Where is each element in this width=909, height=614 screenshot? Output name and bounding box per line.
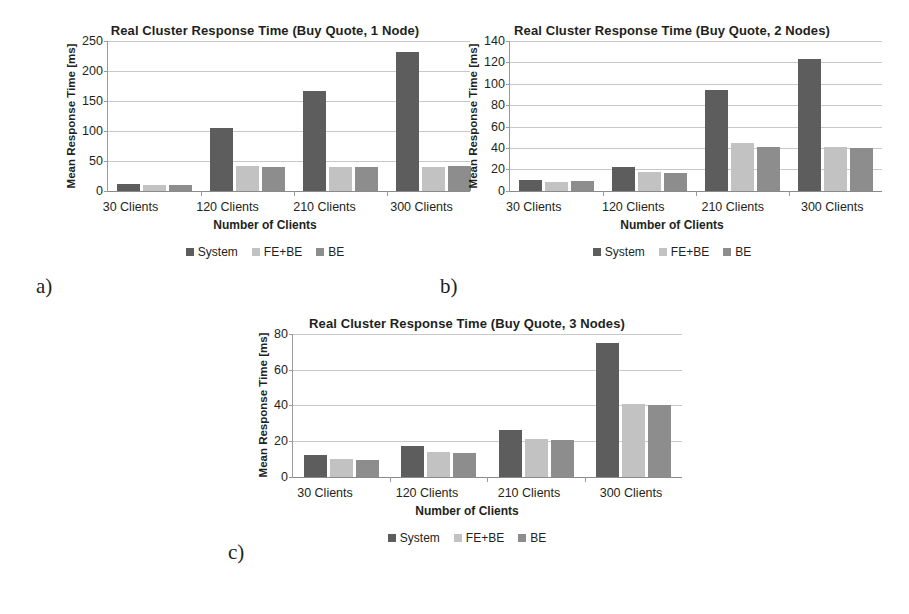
x-axis-label: Number of Clients: [60, 218, 470, 232]
bar-system: [499, 430, 522, 476]
x-tick-label: 300 Clients: [580, 486, 682, 500]
bar-group: [603, 41, 696, 191]
bar-system: [612, 167, 635, 191]
panel-tag-c: c): [228, 540, 244, 565]
bar-fe-be: [236, 166, 259, 191]
plot-area: [292, 334, 682, 477]
legend-label-febe: FE+BE: [466, 531, 504, 545]
bar-fe-be: [330, 459, 353, 477]
bar-groups: [293, 334, 682, 477]
chart-title: Real Cluster Response Time (Buy Quote, 1…: [60, 22, 470, 41]
legend-swatch-icon-febe: [454, 534, 462, 542]
y-axis-label: Mean Response Time [ms]: [467, 43, 479, 188]
legend: System FE+BE BE: [60, 245, 470, 259]
bar-system: [798, 59, 821, 191]
legend-swatch-icon-febe: [252, 248, 260, 256]
x-tick-label: 120 Clients: [584, 200, 684, 214]
legend-item-febe: FE+BE: [454, 531, 504, 545]
legend-item-be: BE: [723, 245, 751, 259]
bar-group: [293, 334, 390, 477]
x-axis-label: Number of Clients: [462, 218, 882, 232]
chart-panel-c: Real Cluster Response Time (Buy Quote, 3…: [252, 315, 682, 605]
bar-be: [453, 453, 476, 477]
legend-item-be: BE: [518, 531, 546, 545]
x-tick-label: 30 Clients: [274, 486, 376, 500]
bar-fe-be: [427, 452, 450, 477]
legend-item-febe: FE+BE: [252, 245, 302, 259]
chart-panel-b: Real Cluster Response Time (Buy Quote, 2…: [462, 22, 882, 307]
legend-label-be: BE: [530, 531, 546, 545]
chart-panel-a: Real Cluster Response Time (Buy Quote, 1…: [60, 22, 470, 307]
bar-group: [696, 41, 789, 191]
bar-system: [210, 128, 233, 190]
x-tick-labels: 30 Clients120 Clients210 Clients300 Clie…: [484, 200, 882, 214]
x-tick-spacer: [462, 200, 484, 214]
legend-swatch-icon-febe: [659, 248, 667, 256]
legend-swatch-icon-system: [593, 248, 601, 256]
bar-system: [401, 446, 424, 476]
bar-group: [585, 334, 682, 477]
bar-be: [648, 405, 671, 477]
bar-groups: [108, 41, 470, 191]
y-tick-mark: [289, 477, 293, 478]
bar-system: [304, 455, 327, 476]
y-axis-label-box: Mean Response Time [ms]: [60, 41, 82, 191]
bar-group: [108, 41, 201, 191]
plot-area: [509, 41, 882, 191]
x-axis-label: Number of Clients: [252, 504, 682, 518]
x-tick-label: 30 Clients: [484, 200, 584, 214]
legend-swatch-icon-be: [316, 248, 324, 256]
bar-be: [355, 167, 378, 191]
legend-swatch-icon-system: [186, 248, 194, 256]
y-tick-labels: 250200150100500: [82, 41, 107, 191]
x-tick-label: 210 Clients: [683, 200, 783, 214]
chart-title: Real Cluster Response Time (Buy Quote, 2…: [462, 22, 882, 41]
x-tick-label: 300 Clients: [783, 200, 883, 214]
legend-label-system: System: [198, 245, 238, 259]
x-tick-label: 300 Clients: [373, 200, 470, 214]
chart-title: Real Cluster Response Time (Buy Quote, 3…: [252, 315, 682, 334]
legend-label-system: System: [605, 245, 645, 259]
x-tick-spacer: [60, 200, 82, 214]
bar-system: [117, 184, 140, 191]
x-tick-label: 120 Clients: [376, 486, 478, 500]
legend-item-febe: FE+BE: [659, 245, 709, 259]
y-axis-label: Mean Response Time [ms]: [65, 43, 77, 188]
bar-be: [757, 147, 780, 191]
x-tick-label: 120 Clients: [179, 200, 276, 214]
panel-tag-b: b): [440, 274, 458, 299]
x-tick-labels: 30 Clients120 Clients210 Clients300 Clie…: [274, 486, 682, 500]
bar-be: [850, 148, 873, 191]
legend-label-system: System: [400, 531, 440, 545]
legend-item-system: System: [593, 245, 645, 259]
panel-tag-a: a): [36, 274, 52, 299]
x-tick-label: 210 Clients: [276, 200, 373, 214]
bar-group: [201, 41, 294, 191]
bar-be: [262, 167, 285, 191]
legend: System FE+BE BE: [252, 531, 682, 545]
y-tick-mark: [104, 191, 108, 192]
bar-fe-be: [731, 143, 754, 191]
y-axis-label-box: Mean Response Time [ms]: [462, 41, 484, 191]
bar-be: [356, 460, 379, 477]
legend-swatch-icon-be: [518, 534, 526, 542]
plot-area: [107, 41, 470, 191]
plot-row: Mean Response Time [ms] 806040200: [252, 334, 682, 477]
bar-fe-be: [824, 147, 847, 191]
bar-groups: [510, 41, 882, 191]
x-tick-label: 210 Clients: [478, 486, 580, 500]
bar-be: [571, 181, 594, 191]
legend-item-be: BE: [316, 245, 344, 259]
bar-be: [169, 185, 192, 190]
legend-label-febe: FE+BE: [264, 245, 302, 259]
bar-fe-be: [143, 185, 166, 190]
x-tick-spacer: [252, 486, 274, 500]
y-axis-label-box: Mean Response Time [ms]: [252, 334, 274, 477]
bar-group: [294, 41, 387, 191]
y-tick-labels: 140120100806040200: [484, 41, 509, 191]
legend-label-febe: FE+BE: [671, 245, 709, 259]
bar-fe-be: [622, 404, 645, 477]
x-tick-labels: 30 Clients120 Clients210 Clients300 Clie…: [82, 200, 470, 214]
y-axis-label: Mean Response Time [ms]: [257, 333, 269, 478]
bar-be: [551, 440, 574, 477]
